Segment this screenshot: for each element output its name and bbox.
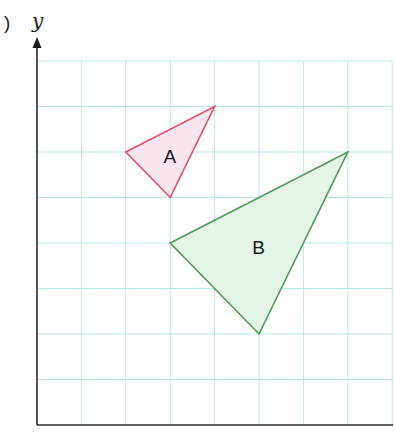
coordinate-grid-diagram: AB ) y bbox=[0, 0, 395, 441]
part-marker: ) bbox=[4, 12, 10, 33]
triangle-a-label: A bbox=[164, 146, 177, 167]
triangle-b-label: B bbox=[252, 237, 265, 258]
y-axis-arrow-icon bbox=[33, 37, 42, 48]
shapes-layer: AB bbox=[126, 107, 348, 335]
y-axis-label: y bbox=[31, 9, 44, 33]
